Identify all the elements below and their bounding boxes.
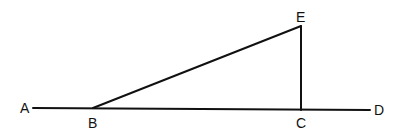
diagram-svg: A B C D E xyxy=(0,0,400,132)
label-c: C xyxy=(296,115,306,131)
label-b: B xyxy=(88,115,97,131)
label-a: A xyxy=(20,100,30,116)
label-d: D xyxy=(374,102,384,118)
segment-be xyxy=(93,26,301,108)
line-ad xyxy=(33,108,370,110)
label-e: E xyxy=(296,9,305,25)
geometry-diagram: A B C D E xyxy=(0,0,400,132)
